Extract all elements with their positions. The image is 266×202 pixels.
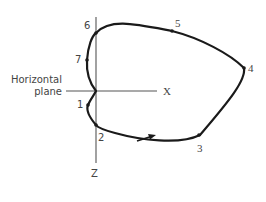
point-7-label: 7 bbox=[75, 54, 81, 65]
point-5-label: 5 bbox=[175, 17, 181, 29]
point-7-marker bbox=[85, 58, 89, 62]
point-2-label: 2 bbox=[98, 132, 104, 143]
point-4-marker bbox=[242, 66, 246, 70]
plane-label-line2: plane bbox=[34, 86, 62, 97]
point-2-marker bbox=[94, 123, 98, 127]
loop-curve bbox=[87, 24, 244, 141]
point-6-marker bbox=[94, 31, 98, 35]
plane-label-line1: Horizontal bbox=[11, 74, 62, 85]
point-3-label: 3 bbox=[197, 142, 203, 154]
point-6-label: 6 bbox=[84, 20, 90, 31]
point-4-label: 4 bbox=[248, 62, 254, 74]
z-axis-label: Z bbox=[91, 168, 98, 179]
point-1-marker bbox=[86, 103, 90, 107]
point-1-label: 1 bbox=[77, 99, 83, 110]
point-3-marker bbox=[197, 133, 201, 137]
loop-diagram: 6 7 1 2 3 4 5 X Z Horizontal plane bbox=[0, 0, 266, 202]
x-axis-label: X bbox=[163, 85, 171, 97]
point-5-marker bbox=[170, 29, 174, 33]
